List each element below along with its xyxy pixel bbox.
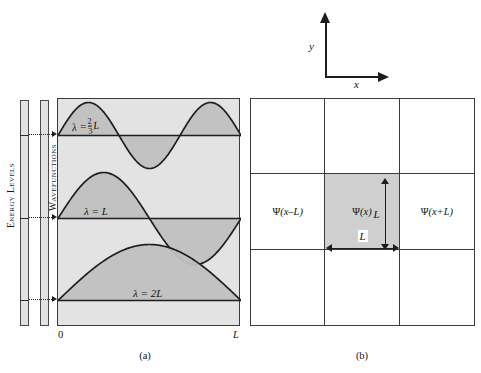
y-axis-label: y [309, 40, 314, 52]
connector-arrow-n1 [29, 296, 58, 303]
psi-label-right: Ψ(x+L) [400, 206, 474, 217]
grid-cell-mid-right: Ψ(x+L) [400, 174, 474, 249]
grid-cell-top-center [325, 99, 399, 174]
dimension-arrow-horizontal: L [326, 243, 399, 254]
figure-canvas: y x Energy Levels Wavefunctions [0, 0, 481, 373]
connector-arrow-n3 [29, 131, 58, 138]
coordinate-axes: y x [318, 12, 398, 82]
grid-cell-top-left [251, 99, 325, 174]
energy-levels-bar [20, 100, 29, 326]
x-axis-arrowhead [378, 72, 389, 82]
energy-level-tick-n3 [20, 135, 29, 136]
wave-lambda-n3: λ = [72, 120, 88, 133]
energy-level-tick-n2 [20, 218, 29, 219]
grid-cell-bottom-left [251, 250, 325, 325]
wave-label-n3: λ =23L [71, 116, 100, 137]
wave-label-n1: λ = 2L [133, 287, 162, 299]
grid-cell-bottom-center [325, 250, 399, 325]
y-axis-arrowhead [320, 12, 330, 23]
wave-lambda-tail-n3: L [93, 119, 100, 131]
psi-label-left: Ψ(x–L) [251, 206, 324, 217]
dimension-label-horizontal: L [357, 230, 367, 242]
x-axis-line [325, 76, 380, 78]
dimension-label-vertical: L [374, 208, 380, 220]
panel-b-grid: Ψ(x–L) Ψ(x) L Ψ(x+L) [250, 98, 475, 326]
panel-a-axis-L: L [233, 329, 239, 340]
wave-label-n2: λ = L [84, 205, 108, 217]
panel-a-caption: (a) [120, 350, 170, 361]
grid-cell-bottom-right [400, 250, 474, 325]
panel-a-box: λ =23L λ = L λ = 2L [57, 98, 240, 326]
panel-a-axis-zero: 0 [58, 329, 63, 340]
y-axis-line [325, 21, 327, 78]
connector-arrow-n2 [29, 214, 58, 221]
energy-levels-label: Energy Levels [6, 140, 16, 250]
x-axis-label: x [354, 78, 359, 90]
dimension-arrow-vertical: L [380, 178, 391, 250]
energy-level-tick-n1 [20, 300, 29, 301]
panel-b-caption: (b) [337, 350, 387, 361]
grid-cell-mid-left: Ψ(x–L) [251, 174, 325, 249]
grid-cell-top-right [400, 99, 474, 174]
